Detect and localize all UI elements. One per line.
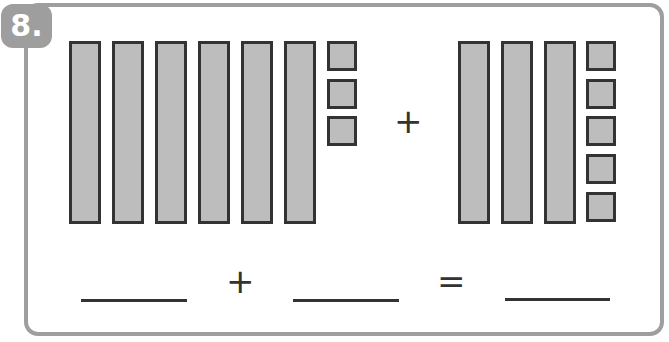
ten-rod [284, 41, 316, 224]
one-cube [327, 116, 357, 146]
ten-rod [241, 41, 273, 224]
ten-rod [544, 41, 576, 224]
one-cube [586, 154, 616, 184]
one-cube [586, 116, 616, 146]
ten-rod [198, 41, 230, 224]
one-cube [327, 41, 357, 71]
ten-rod [112, 41, 144, 224]
ten-rod [501, 41, 533, 224]
answer-blank-2[interactable] [293, 299, 399, 302]
one-cube [327, 79, 357, 109]
ten-rod [458, 41, 490, 224]
ten-rod [69, 41, 101, 224]
ten-rod [155, 41, 187, 224]
equals-sign: = [437, 264, 466, 298]
answer-blank-sum[interactable] [505, 298, 610, 301]
answer-blank-1[interactable] [81, 299, 187, 302]
one-cube [586, 79, 616, 109]
one-cube [586, 192, 616, 222]
one-cube [586, 41, 616, 71]
plus-sign: + [226, 264, 255, 298]
plus-sign-top: + [394, 104, 423, 138]
problem-number-badge: 8. [1, 4, 52, 48]
